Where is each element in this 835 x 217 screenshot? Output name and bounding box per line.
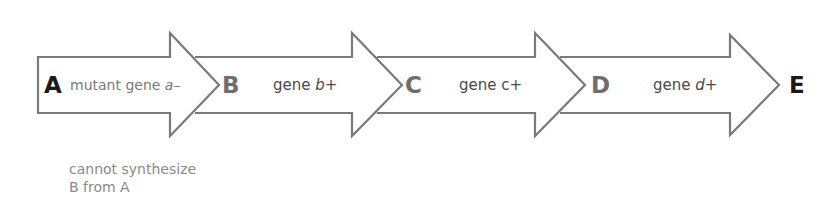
gene-allele: + [705, 76, 718, 94]
gene-label-b: gene b+ [273, 76, 337, 94]
gene-symbol: c [501, 76, 509, 94]
node-c: C [405, 72, 422, 98]
note-line-1: cannot synthesize [69, 160, 196, 178]
node-d: D [591, 72, 610, 98]
node-b: B [222, 72, 240, 98]
gene-symbol: d [695, 76, 705, 94]
note-line-2: B from A [69, 178, 196, 196]
gene-label-a-mutant: mutant gene a– [70, 76, 180, 94]
gene-label-c: gene c+ [459, 76, 522, 94]
gene-prefix: mutant gene [70, 77, 165, 93]
gene-symbol: b [315, 76, 325, 94]
gene-prefix: gene [653, 76, 695, 94]
gene-label-d: gene d+ [653, 76, 717, 94]
gene-allele: – [173, 77, 180, 93]
gene-prefix: gene [273, 76, 315, 94]
gene-prefix: gene [459, 76, 501, 94]
mutant-note: cannot synthesize B from A [69, 160, 196, 196]
gene-allele: + [510, 76, 523, 94]
node-a: A [44, 72, 62, 98]
node-e: E [789, 72, 805, 98]
gene-allele: + [325, 76, 338, 94]
